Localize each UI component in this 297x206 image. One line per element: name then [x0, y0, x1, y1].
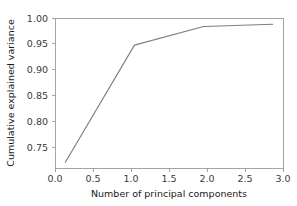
y-tick-marks — [52, 18, 56, 148]
line-chart-canvas: 0.0 0.5 1.0 1.5 2.0 2.5 3.0 1.00 0.95 0.… — [0, 0, 297, 206]
y-tick-label: 0.80 — [27, 116, 48, 127]
x-tick-marks — [55, 168, 283, 172]
y-tick-label: 0.90 — [27, 64, 48, 75]
x-tick-label: 2.0 — [199, 173, 214, 184]
x-tick-label: 0.0 — [47, 173, 62, 184]
y-tick-labels: 1.00 0.95 0.90 0.85 0.80 0.75 — [27, 13, 48, 154]
x-tick-labels: 0.0 0.5 1.0 1.5 2.0 2.5 3.0 — [47, 173, 290, 184]
y-tick-label: 1.00 — [27, 13, 48, 24]
y-tick-label: 0.85 — [27, 90, 48, 101]
y-tick-label: 0.95 — [27, 38, 48, 49]
chart-figure: 0.0 0.5 1.0 1.5 2.0 2.5 3.0 1.00 0.95 0.… — [0, 0, 297, 206]
y-tick-label: 0.75 — [27, 142, 48, 153]
x-tick-label: 1.5 — [161, 173, 176, 184]
x-tick-label: 2.5 — [237, 173, 252, 184]
x-tick-label: 1.0 — [123, 173, 138, 184]
y-axis-title: Cumulative explained variance — [5, 19, 16, 167]
plot-background — [55, 18, 283, 168]
x-tick-label: 0.5 — [85, 173, 100, 184]
x-tick-label: 3.0 — [275, 173, 290, 184]
x-axis-title: Number of principal components — [91, 188, 247, 199]
